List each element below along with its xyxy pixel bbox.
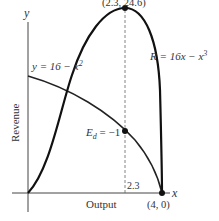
elasticity-label: Ed = −1 [85, 126, 120, 141]
y-axis-symbol: y [23, 6, 30, 20]
x-axis-symbol: x [171, 186, 178, 200]
unit-elasticity-point [122, 128, 128, 134]
zero-point [159, 190, 165, 196]
x-axis-label: Output [86, 198, 117, 210]
demand-curve-label: y = 16 − x2 [31, 59, 83, 72]
revenue-curve-label: R = 16x − x3 [149, 49, 207, 62]
zero-point-label: (4, 0) [147, 199, 170, 211]
revenue-curve [28, 8, 162, 193]
max-revenue-label: (2.3, 24.6) [102, 0, 146, 9]
revenue-chart: y x Revenue Output 2.3 (2.3, 24.6) R = 1… [0, 0, 219, 221]
x-2-3-tick-label: 2.3 [127, 180, 140, 191]
y-axis-label: Revenue [9, 103, 21, 142]
